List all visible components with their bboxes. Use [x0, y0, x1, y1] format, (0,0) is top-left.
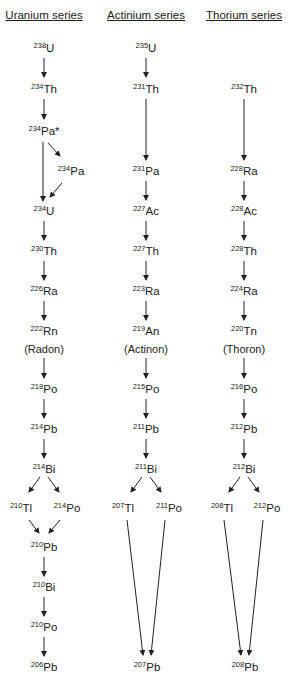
mass-number: 216 — [231, 382, 244, 391]
mass-number: 208 — [211, 501, 224, 510]
decay-arrow — [224, 520, 241, 655]
nuclide-label: 230Th — [31, 246, 57, 258]
nuclide-label: 231Th — [133, 84, 159, 96]
nuclide-label: 211Po — [156, 503, 182, 515]
mass-number: 206 — [31, 660, 44, 669]
element-symbol: Po — [243, 383, 257, 395]
element-symbol: Tn — [244, 325, 257, 337]
nuclide-label: 210Pb — [31, 542, 58, 554]
element-symbol: U — [148, 42, 156, 54]
nuclide-label: 220Tn — [231, 326, 257, 338]
element-symbol: Bi — [45, 463, 55, 475]
nuclide-label: 238U — [34, 43, 55, 55]
mass-number: 230 — [31, 244, 44, 253]
nuclide-label: 214Pb — [31, 424, 58, 436]
element-symbol: Ac — [244, 205, 257, 217]
mass-number: 210 — [31, 620, 44, 629]
element-symbol: Po — [66, 502, 80, 514]
element-symbol: Th — [44, 245, 57, 257]
mass-number: 234 — [34, 204, 47, 213]
mass-number: 207 — [134, 660, 147, 669]
mass-number: 215 — [133, 382, 146, 391]
decay-arrow — [29, 477, 40, 492]
nuclide-label: 232Th — [231, 84, 257, 96]
decay-arrow — [248, 477, 259, 492]
mass-number: 210 — [10, 501, 23, 510]
mass-number: 227 — [133, 244, 146, 253]
nuclide-label: 228Ra — [230, 166, 257, 178]
mass-number: 228 — [230, 164, 243, 173]
nuclide-label: 214Po — [54, 503, 81, 515]
element-symbol: Pb — [145, 423, 159, 435]
nuclide-label: 226Ra — [30, 286, 57, 298]
nuclide-label: 234U — [34, 206, 55, 218]
mass-number: 231 — [133, 82, 146, 91]
decay-arrow — [50, 183, 62, 197]
element-symbol: Pa* — [41, 125, 60, 137]
mass-number: 211 — [133, 422, 145, 431]
mass-number: 228 — [231, 244, 244, 253]
element-symbol: Po — [43, 621, 57, 633]
element-symbol: Rn — [43, 325, 58, 337]
nuclide-label: 208Pb — [232, 662, 259, 674]
element-symbol: Tl — [124, 502, 134, 514]
mass-number: 214 — [31, 422, 44, 431]
element-symbol: Pb — [43, 423, 57, 435]
element-symbol: Tl — [22, 502, 32, 514]
element-symbol: An — [145, 325, 159, 337]
element-symbol: Ra — [145, 285, 160, 297]
mass-number: 234 — [58, 164, 71, 173]
element-symbol: Th — [146, 83, 159, 95]
mass-number: 234 — [28, 124, 41, 133]
nuclide-label: 211Pb — [133, 424, 159, 436]
gas-name-note: (Actinon) — [124, 344, 168, 355]
element-symbol: Pb — [146, 661, 160, 673]
mass-number: 214 — [54, 501, 67, 510]
element-symbol: Po — [266, 502, 280, 514]
decay-arrow — [48, 477, 59, 492]
element-symbol: Pb — [243, 423, 257, 435]
mass-number: 212 — [231, 422, 244, 431]
nuclide-label: 212Pb — [231, 424, 258, 436]
decay-arrow — [131, 477, 142, 492]
mass-number: 238 — [34, 41, 47, 50]
nuclide-label: 219An — [133, 326, 160, 338]
mass-number: 222 — [30, 324, 43, 333]
element-symbol: Bi — [45, 581, 55, 593]
nuclide-label: 210Po — [31, 622, 58, 634]
nuclide-label: 218Po — [31, 384, 58, 396]
nuclide-label: 234Pa — [58, 166, 85, 178]
mass-number: 223 — [132, 284, 145, 293]
decay-arrow — [249, 520, 263, 655]
nuclide-label: 228Ac — [231, 206, 257, 218]
gas-name-note: (Thoron) — [223, 344, 265, 355]
mass-number: 207 — [112, 501, 125, 510]
mass-number: 231 — [133, 164, 146, 173]
element-symbol: Po — [168, 502, 182, 514]
nuclide-label: 210Tl — [10, 503, 32, 515]
nuclide-label: 228Th — [231, 246, 257, 258]
decay-arrow — [151, 520, 165, 655]
nuclide-label: 214Bi — [33, 464, 56, 476]
element-symbol: Ac — [146, 205, 159, 217]
element-symbol: U — [46, 42, 54, 54]
nuclide-label: 235U — [136, 43, 157, 55]
mass-number: 211 — [135, 462, 147, 471]
element-symbol: Th — [146, 245, 159, 257]
mass-number: 210 — [31, 540, 44, 549]
element-symbol: Pb — [43, 541, 57, 553]
nuclide-label: 222Rn — [30, 326, 57, 338]
element-symbol: Pa — [70, 165, 84, 177]
element-symbol: Th — [244, 83, 257, 95]
element-symbol: Ra — [43, 285, 58, 297]
element-symbol: Bi — [147, 463, 157, 475]
decay-arrow — [229, 477, 240, 492]
nuclide-label: 212Po — [254, 503, 281, 515]
mass-number: 210 — [33, 580, 46, 589]
nuclide-label: 227Ac — [133, 206, 159, 218]
nuclide-label: 216Po — [231, 384, 258, 396]
mass-number: 228 — [231, 204, 244, 213]
mass-number: 224 — [230, 284, 243, 293]
nuclide-label: 208Tl — [211, 503, 233, 515]
gas-name-note: (Radon) — [24, 344, 64, 355]
